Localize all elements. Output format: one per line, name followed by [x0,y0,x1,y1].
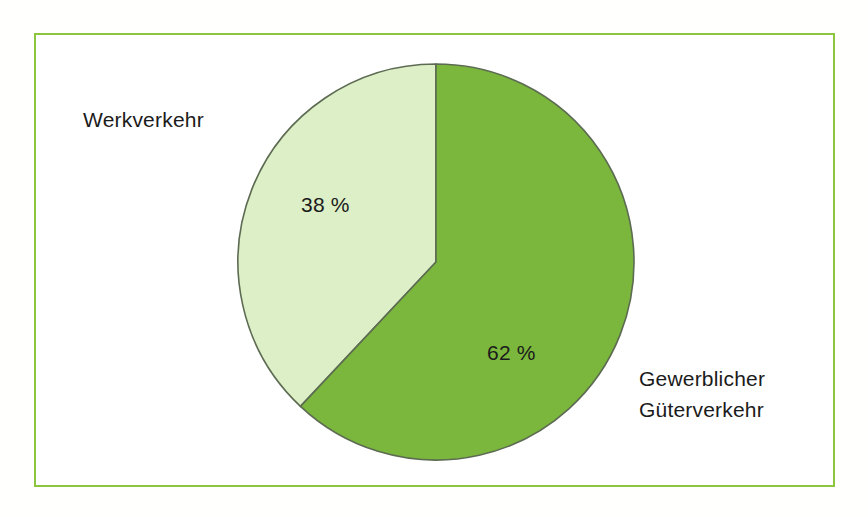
category-label-werkverkehr: Werkverkehr [83,104,204,135]
pie-svg [236,62,636,462]
category-label-line-2: Güterverkehr [639,394,765,425]
data-label-gewerblicher-gueterverkehr: 62 % [487,341,536,365]
category-label-line-1: Gewerblicher [639,363,765,394]
pie-chart-figure: 38 % 62 % Werkverkehr Gewerblicher Güter… [0,0,868,517]
category-label-gewerblicher-gueterverkehr: Gewerblicher Güterverkehr [639,363,765,425]
data-label-werkverkehr: 38 % [301,193,350,217]
pie-chart [236,62,636,462]
